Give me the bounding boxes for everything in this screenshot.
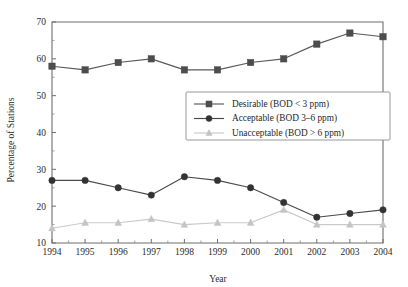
y-axis-ticks: [52, 22, 56, 243]
x-tick-label: 2002: [307, 247, 326, 257]
data-point: [181, 67, 187, 73]
y-tick-label: 60: [37, 54, 47, 64]
data-point: [115, 59, 121, 65]
y-tick-label: 20: [37, 202, 47, 212]
data-point: [314, 41, 320, 47]
data-point: [347, 30, 353, 36]
chart-legend: Desirable (BOD < 3 ppm)Acceptable (BOD 3…: [186, 92, 390, 140]
x-axis-title: Year: [209, 274, 227, 284]
y-tick-label: 30: [37, 165, 47, 175]
x-tick-label: 1998: [175, 247, 194, 257]
data-point: [82, 67, 88, 73]
line-chart: 10203040506070 1994199519961997199819992…: [0, 0, 408, 287]
legend-marker: [206, 116, 212, 122]
legend-label: Desirable (BOD < 3 ppm): [232, 99, 329, 110]
data-point: [247, 59, 253, 65]
data-point: [214, 67, 220, 73]
y-axis-title: Percentage of Stations: [6, 97, 16, 182]
data-point: [82, 177, 88, 183]
data-point: [49, 63, 55, 69]
x-tick-label: 2001: [274, 247, 293, 257]
x-tick-label: 2000: [241, 247, 260, 257]
x-tick-label: 1999: [208, 247, 227, 257]
y-tick-label: 40: [37, 128, 47, 138]
data-point: [181, 174, 187, 180]
legend-label: Unacceptable (BOD > 6 ppm): [232, 128, 344, 139]
data-point: [281, 199, 287, 205]
data-point: [148, 192, 154, 198]
legend-label: Acceptable (BOD 3–6 ppm): [232, 113, 337, 124]
data-point: [148, 215, 155, 221]
data-point: [247, 185, 253, 191]
x-tick-label: 1994: [43, 247, 62, 257]
data-point: [214, 177, 220, 183]
data-point: [314, 214, 320, 220]
x-tick-label: 1995: [76, 247, 95, 257]
x-axis-ticks: [52, 239, 383, 243]
legend-marker: [206, 101, 212, 107]
x-axis-tick-labels: 1994199519961997199819992000200120022003…: [43, 247, 393, 257]
x-tick-label: 1997: [142, 247, 161, 257]
data-point: [380, 207, 386, 213]
x-tick-label: 2004: [374, 247, 393, 257]
data-series: [49, 174, 386, 221]
data-point: [347, 210, 353, 216]
x-tick-label: 1996: [109, 247, 128, 257]
data-point: [280, 206, 287, 212]
data-series: [49, 206, 387, 231]
y-axis-tick-labels: 10203040506070: [37, 17, 47, 248]
data-point: [380, 34, 386, 40]
data-point: [115, 185, 121, 191]
data-point: [148, 56, 154, 62]
data-series: [49, 30, 386, 73]
data-point: [49, 177, 55, 183]
y-tick-label: 50: [37, 91, 47, 101]
data-point: [281, 56, 287, 62]
x-tick-label: 2003: [340, 247, 359, 257]
series-line: [52, 33, 383, 70]
y-tick-label: 70: [37, 17, 47, 27]
chart-figure: 10203040506070 1994199519961997199819992…: [0, 0, 408, 287]
